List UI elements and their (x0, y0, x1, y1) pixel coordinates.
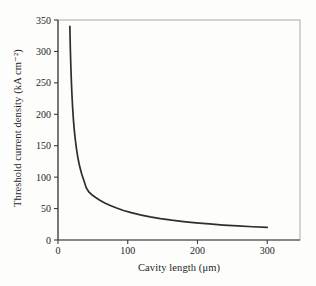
figure-container: 0100200300050100150200250300350 Cavity l… (0, 0, 316, 286)
chart-canvas: 0100200300050100150200250300350 (0, 0, 316, 286)
y-tick-label: 250 (36, 77, 51, 88)
y-axis-title: Threshold current density (kA cm⁻²) (11, 49, 23, 207)
y-tick-label: 350 (36, 15, 51, 26)
y-tick-label: 150 (36, 140, 51, 151)
plot-frame (58, 20, 300, 240)
x-tick-label: 0 (56, 245, 61, 256)
threshold-current-curve (70, 26, 267, 227)
y-tick-label: 100 (36, 172, 51, 183)
x-tick-label: 200 (190, 245, 205, 256)
x-axis-title: Cavity length (μm) (138, 262, 220, 273)
y-tick-label: 0 (46, 235, 51, 246)
x-tick-label: 100 (120, 245, 135, 256)
x-tick-label: 300 (260, 245, 275, 256)
y-tick-label: 200 (36, 109, 51, 120)
y-tick-label: 300 (36, 46, 51, 57)
y-tick-label: 50 (41, 203, 51, 214)
